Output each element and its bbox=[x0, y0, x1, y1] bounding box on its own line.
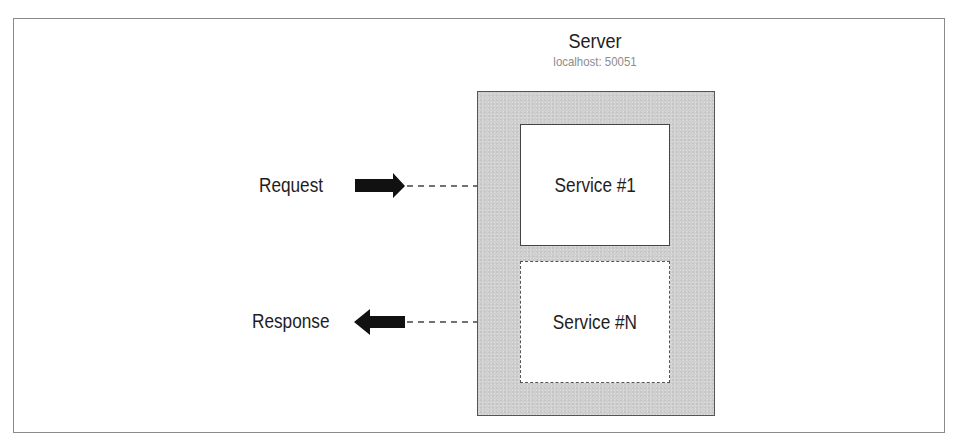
server-address: localhost: 50051 bbox=[507, 54, 683, 70]
service-label: Service #N bbox=[553, 311, 637, 334]
service-label: Service #1 bbox=[554, 174, 635, 197]
service-box-1: Service #1 bbox=[520, 124, 670, 246]
request-label: Request bbox=[259, 173, 323, 197]
response-label: Response bbox=[252, 309, 329, 333]
service-box-n: Service #N bbox=[520, 261, 670, 383]
server-title: Server bbox=[509, 29, 681, 53]
